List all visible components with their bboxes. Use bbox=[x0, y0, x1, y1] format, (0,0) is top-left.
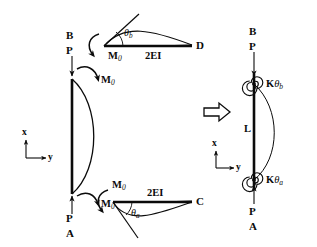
top-beam-angle-label: θb bbox=[124, 28, 133, 40]
left-top-point-label-B: B bbox=[66, 30, 73, 41]
top-spring-subscript: b bbox=[279, 82, 283, 91]
left-coordinate-axes bbox=[26, 140, 46, 158]
top-beam-moment-symbol: M bbox=[108, 50, 118, 61]
top-spring-stiffness-label: Kθb bbox=[266, 79, 283, 90]
right-column-buckled-shape bbox=[254, 84, 274, 180]
left-axis-label-x: x bbox=[22, 128, 27, 138]
left-top-load-label-P: P bbox=[66, 45, 73, 56]
diagram-vector-layer bbox=[0, 0, 317, 247]
right-bottom-load-label-P: P bbox=[249, 206, 256, 217]
right-axis-label-y: y bbox=[236, 163, 241, 173]
left-top-moment-arrow bbox=[77, 67, 98, 79]
top-rotational-spring bbox=[242, 77, 262, 96]
left-top-moment-label: M0 bbox=[101, 75, 115, 86]
top-beam-member bbox=[104, 45, 192, 48]
bottom-rotational-spring bbox=[242, 173, 262, 192]
top-beam-far-end-label-D: D bbox=[196, 40, 204, 51]
structural-diagram-canvas: B P M0 M0 P A x y θb M0 2EI D M0 2EI θa … bbox=[0, 0, 317, 247]
right-coordinate-axes bbox=[216, 151, 234, 168]
left-top-moment-subscript: 0 bbox=[111, 78, 115, 87]
bottom-beam-moment-label: M0 bbox=[112, 180, 126, 191]
bottom-beam-deflected-curve bbox=[113, 202, 192, 216]
left-axis-label-y: y bbox=[48, 153, 53, 163]
bottom-spring-stiffness-label: Kθa bbox=[266, 175, 283, 186]
left-bottom-moment-subscript: 0 bbox=[111, 202, 115, 211]
right-axis-label-x: x bbox=[212, 139, 217, 149]
left-top-moment-symbol: M bbox=[101, 74, 111, 85]
top-beam-stiffness-label: 2EI bbox=[145, 51, 161, 62]
bottom-beam-moment-subscript: 0 bbox=[122, 183, 126, 192]
bottom-beam-theta-subscript: a bbox=[136, 212, 140, 220]
top-beam-moment-subscript: 0 bbox=[118, 54, 122, 63]
left-bottom-moment-symbol: M bbox=[101, 198, 111, 209]
bottom-beam-stiffness-label: 2EI bbox=[147, 188, 163, 199]
left-bottom-moment-label: M0 bbox=[101, 199, 115, 210]
top-beam-moment-label: M0 bbox=[108, 51, 122, 62]
bottom-beam-member bbox=[113, 201, 192, 204]
right-bottom-point-label-A: A bbox=[249, 221, 257, 232]
right-column-length-label-L: L bbox=[244, 124, 251, 135]
bottom-beam-moment-symbol: M bbox=[112, 179, 122, 190]
bottom-beam-angle-label: θa bbox=[131, 208, 140, 220]
bottom-spring-subscript: a bbox=[279, 178, 283, 187]
bottom-spring-k-symbol: K bbox=[266, 174, 274, 185]
left-column-buckled-shape bbox=[72, 79, 94, 194]
right-top-load-label-P: P bbox=[249, 41, 256, 52]
top-beam-theta-subscript: b bbox=[129, 32, 133, 40]
top-spring-k-symbol: K bbox=[266, 78, 274, 89]
left-bottom-load-label-P: P bbox=[66, 213, 73, 224]
left-bottom-moment-arrow bbox=[77, 193, 98, 204]
top-beam-moment-arrow bbox=[89, 34, 99, 55]
right-top-point-label-B: B bbox=[249, 26, 256, 37]
transform-arrow-icon bbox=[204, 103, 230, 121]
left-bottom-point-label-A: A bbox=[66, 228, 74, 239]
bottom-beam-far-end-label-C: C bbox=[196, 196, 204, 207]
